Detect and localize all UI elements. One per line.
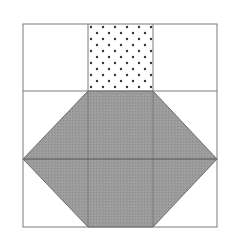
dotted-square [88, 24, 153, 91]
grid-diagram [0, 0, 236, 239]
